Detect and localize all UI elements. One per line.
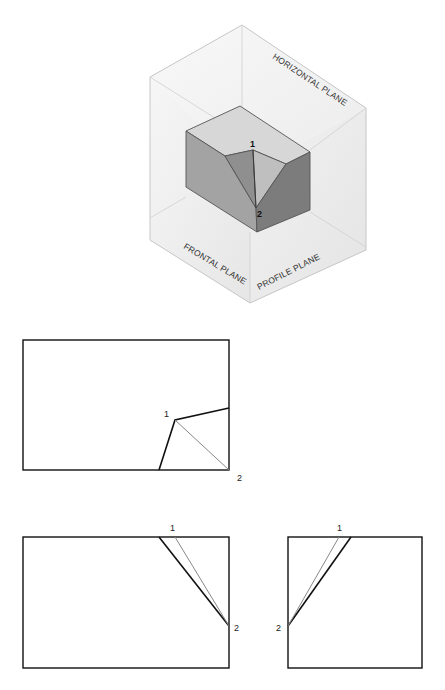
side-view-point-2-label: 2 xyxy=(276,623,281,633)
front-view-outline xyxy=(23,537,229,668)
top-view-outline xyxy=(23,340,229,470)
top-view-point-2-label: 2 xyxy=(237,473,242,483)
side-view-notch-edge xyxy=(288,537,351,626)
side-view: 1 2 xyxy=(276,523,422,668)
side-view-point-1-label: 1 xyxy=(337,523,342,533)
top-view-point-1-label: 1 xyxy=(164,409,169,419)
top-view-line-1-2 xyxy=(175,420,229,470)
point-1-label: 1 xyxy=(250,139,255,149)
point-2-label: 2 xyxy=(257,209,262,219)
front-view: 1 2 xyxy=(23,523,239,668)
side-view-line-1-2 xyxy=(288,537,339,626)
front-view-point-1-label: 1 xyxy=(170,523,175,533)
pictorial-view: 1 2 HORIZONTAL PLANE FRONTAL PLANE PROFI… xyxy=(150,25,366,303)
top-view: 1 2 xyxy=(23,340,242,483)
side-view-outline xyxy=(288,537,422,668)
front-view-point-2-label: 2 xyxy=(234,623,239,633)
front-view-line-1-2 xyxy=(175,537,229,626)
front-view-notch-edge xyxy=(159,537,229,626)
projection-diagram: 1 2 HORIZONTAL PLANE FRONTAL PLANE PROFI… xyxy=(0,0,445,690)
